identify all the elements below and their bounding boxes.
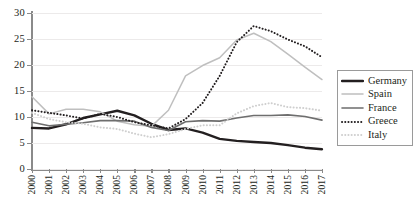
legend-item-germany[interactable]: Germany xyxy=(341,74,409,88)
x-axis-tick xyxy=(220,169,221,173)
x-axis-label: 2003 xyxy=(78,175,88,194)
x-axis-tick xyxy=(322,169,323,173)
x-axis-tick xyxy=(237,169,238,173)
x-axis-label: 2013 xyxy=(249,175,259,194)
legend-item-greece[interactable]: Greece xyxy=(341,115,409,129)
legend-label: France xyxy=(368,103,397,114)
y-axis-label: 0 xyxy=(20,163,25,174)
x-axis-label: 2015 xyxy=(283,175,293,194)
x-axis-label: 2002 xyxy=(61,175,71,194)
series-line-greece xyxy=(32,26,322,128)
x-axis-tick xyxy=(49,169,50,173)
x-axis-label: 2007 xyxy=(146,175,156,194)
x-axis-label: 2006 xyxy=(129,175,139,194)
x-axis-tick xyxy=(186,169,187,173)
x-axis-label: 2005 xyxy=(112,175,122,194)
gridline xyxy=(32,169,322,170)
y-axis-label: 10 xyxy=(14,111,25,122)
x-axis-label: 2001 xyxy=(44,175,54,194)
series-line-germany xyxy=(32,111,322,149)
y-axis-label: 20 xyxy=(14,59,25,70)
y-axis-label: 30 xyxy=(14,7,25,18)
x-axis-tick xyxy=(83,169,84,173)
chart-legend: GermanySpainFranceGreeceItaly xyxy=(337,70,413,146)
legend-label: Greece xyxy=(368,116,398,127)
plot-area: 051015202530 200020012002200320042005200… xyxy=(32,13,322,169)
x-axis-label: 2011 xyxy=(215,175,225,194)
x-axis-label: 2017 xyxy=(317,175,327,194)
legend-swatch-icon xyxy=(341,129,364,141)
series-line-spain xyxy=(32,33,322,126)
x-axis-label: 2016 xyxy=(300,175,310,194)
x-axis-label: 2000 xyxy=(27,175,37,194)
legend-swatch-icon xyxy=(341,102,364,114)
x-axis-label: 2004 xyxy=(95,175,105,194)
x-axis-tick xyxy=(117,169,118,173)
x-axis-label: 2014 xyxy=(266,175,276,194)
x-axis-tick xyxy=(203,169,204,173)
legend-swatch-icon xyxy=(341,88,364,100)
x-axis-label: 2009 xyxy=(181,175,191,194)
x-axis-label: 2012 xyxy=(232,175,242,194)
legend-item-italy[interactable]: Italy xyxy=(341,128,409,142)
y-axis-label: 25 xyxy=(14,33,25,44)
chart-figure: 051015202530 200020012002200320042005200… xyxy=(0,0,417,221)
y-axis-label: 5 xyxy=(20,137,25,148)
legend-label: Italy xyxy=(368,130,387,141)
x-axis-label: 2010 xyxy=(198,175,208,194)
legend-label: Spain xyxy=(368,89,392,100)
x-axis-tick xyxy=(305,169,306,173)
legend-item-france[interactable]: France xyxy=(341,101,409,115)
y-axis-label: 15 xyxy=(14,85,25,96)
x-axis-tick xyxy=(288,169,289,173)
legend-swatch-icon xyxy=(341,116,364,128)
x-axis-tick xyxy=(168,169,169,173)
series-lines xyxy=(32,13,322,169)
x-axis-tick xyxy=(32,169,33,173)
x-axis-label: 2008 xyxy=(163,175,173,194)
legend-item-spain[interactable]: Spain xyxy=(341,88,409,102)
x-axis-tick xyxy=(254,169,255,173)
legend-swatch-icon xyxy=(341,75,364,87)
x-axis-tick xyxy=(100,169,101,173)
legend-label: Germany xyxy=(368,76,407,87)
x-axis-tick xyxy=(271,169,272,173)
x-axis-tick xyxy=(66,169,67,173)
x-axis-tick xyxy=(151,169,152,173)
x-axis-tick xyxy=(134,169,135,173)
